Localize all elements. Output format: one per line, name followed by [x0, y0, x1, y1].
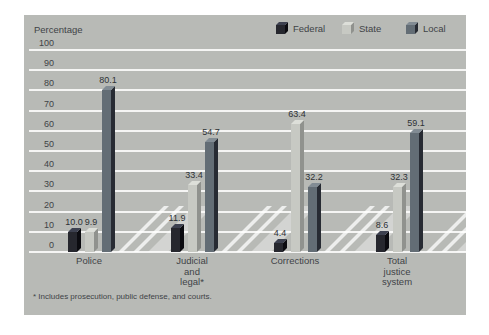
- plot-area: 010203040506070809010010.011.94.48.69.93…: [24, 15, 466, 315]
- y-tick-label-90: 90: [28, 58, 54, 68]
- chart-panel: Percentage FederalStateLocal 01020304050…: [24, 15, 466, 315]
- bar-side: [111, 86, 115, 252]
- value-label-local-total-justice: 59.1: [407, 118, 425, 128]
- bar-front: [308, 187, 317, 252]
- bar-front: [68, 232, 77, 252]
- value-label-state-corrections: 63.4: [288, 109, 306, 119]
- bar-state-judicial-legal: [188, 181, 201, 252]
- bar-front: [274, 243, 283, 252]
- bar-front: [171, 228, 180, 252]
- footnote: * Includes prosecution, public defense, …: [33, 292, 212, 301]
- category-label-line: Corrections: [271, 256, 320, 267]
- y-tick-label-100: 100: [28, 38, 54, 48]
- value-label-local-judicial-legal: 54.7: [202, 127, 220, 137]
- value-label-federal-total-justice: 8.6: [376, 220, 389, 230]
- bar-front: [393, 187, 402, 252]
- value-label-state-police: 9.9: [85, 217, 98, 227]
- category-label-judicial-legal: Judicialandlegal*: [176, 256, 208, 288]
- value-label-state-total-justice: 32.3: [390, 172, 408, 182]
- bar-side: [214, 138, 218, 252]
- gridline-90: [29, 69, 466, 71]
- bar-local-police: [102, 86, 115, 252]
- bar-front: [205, 142, 214, 252]
- bar-side: [94, 228, 98, 252]
- bar-side: [317, 183, 321, 252]
- bar-state-total-justice: [393, 183, 406, 252]
- category-label-line: Police: [76, 256, 102, 267]
- category-label-corrections: Corrections: [271, 256, 320, 267]
- y-tick-label-50: 50: [28, 139, 54, 149]
- y-tick-label-80: 80: [28, 78, 54, 88]
- legend-item-state: State: [342, 21, 381, 36]
- value-label-local-corrections: 32.2: [305, 172, 323, 182]
- y-tick-label-70: 70: [28, 99, 54, 109]
- bar-side: [77, 228, 81, 252]
- legend-label-local: Local: [423, 23, 446, 34]
- legend-label-federal: Federal: [293, 23, 325, 34]
- legend-cube-icon: [342, 22, 355, 35]
- bar-front: [85, 232, 94, 252]
- bar-front: [291, 124, 300, 252]
- bar-state-police: [85, 228, 98, 252]
- bar-side: [402, 183, 406, 252]
- chart-figure: Percentage FederalStateLocal 01020304050…: [0, 0, 489, 335]
- value-label-federal-judicial-legal: 11.9: [169, 213, 186, 223]
- gridline-60: [29, 130, 466, 132]
- bar-federal-total-justice: [376, 231, 389, 252]
- legend-item-federal: Federal: [276, 21, 325, 36]
- y-tick-label-10: 10: [28, 220, 54, 230]
- value-label-local-police: 80.1: [99, 75, 117, 85]
- gridline-80: [29, 89, 466, 91]
- bar-side: [300, 120, 304, 252]
- value-label-state-judicial-legal: 33.4: [185, 170, 203, 180]
- gridline-70: [29, 110, 466, 112]
- y-tick-label-40: 40: [28, 159, 54, 169]
- gridline-100: [29, 49, 466, 51]
- category-label-total-justice: Totaljusticesystem: [382, 256, 412, 288]
- legend-item-local: Local: [406, 21, 446, 36]
- bar-local-corrections: [308, 183, 321, 252]
- bar-side: [180, 224, 184, 252]
- category-label-line: Judicial: [176, 256, 208, 267]
- y-tick-label-20: 20: [28, 200, 54, 210]
- bar-local-total-justice: [410, 129, 423, 252]
- y-tick-label-30: 30: [28, 179, 54, 189]
- bar-federal-corrections: [274, 239, 287, 252]
- category-label-line: Total: [382, 256, 412, 267]
- cube-front: [276, 25, 285, 34]
- value-label-federal-police: 10.0: [65, 217, 83, 227]
- category-label-police: Police: [76, 256, 102, 267]
- gridline-50: [29, 150, 466, 152]
- category-label-line: legal*: [176, 277, 208, 288]
- y-tick-label-60: 60: [28, 119, 54, 129]
- bar-front: [188, 185, 197, 252]
- cube-front: [342, 25, 351, 34]
- bar-front: [102, 90, 111, 252]
- legend-cube-icon: [406, 22, 419, 35]
- bar-state-corrections: [291, 120, 304, 252]
- cube-front: [406, 25, 415, 34]
- bar-federal-judicial-legal: [171, 224, 184, 252]
- bar-side: [419, 129, 423, 252]
- y-tick-label-0: 0: [28, 240, 54, 250]
- category-label-line: system: [382, 277, 412, 288]
- bar-front: [410, 133, 419, 252]
- bar-local-judicial-legal: [205, 138, 218, 252]
- value-label-federal-corrections: 4.4: [274, 228, 287, 238]
- bar-side: [197, 181, 201, 252]
- legend-cube-icon: [276, 22, 289, 35]
- bar-front: [376, 235, 385, 252]
- bar-federal-police: [68, 228, 81, 252]
- legend-label-state: State: [359, 23, 381, 34]
- legend: FederalStateLocal: [24, 15, 466, 39]
